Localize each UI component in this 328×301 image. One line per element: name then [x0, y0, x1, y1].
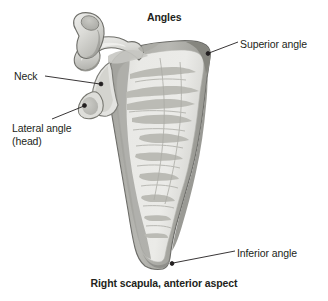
label-neck: Neck [14, 70, 38, 83]
label-superior-angle: Superior angle [240, 38, 307, 51]
label-lateral-angle-line2: (head) [12, 135, 42, 147]
scapula-bone-group [74, 13, 211, 270]
label-lateral-angle-head: Lateral angle(head) [12, 122, 71, 147]
leader-dot-neck [99, 82, 103, 86]
leader-dot-superior-angle [206, 52, 210, 56]
figure-caption: Right scapula, anterior aspect [0, 277, 328, 290]
figure-title-angles: Angles [147, 11, 181, 24]
label-inferior-angle: Inferior angle [237, 247, 297, 260]
leader-superior-angle [209, 42, 238, 53]
leader-dot-inferior-angle [170, 262, 174, 266]
leader-neck [45, 76, 100, 84]
leader-dot-lateral-angle [83, 104, 87, 108]
label-lateral-angle-line1: Lateral angle [12, 122, 71, 134]
leader-inferior-angle [173, 251, 235, 263]
